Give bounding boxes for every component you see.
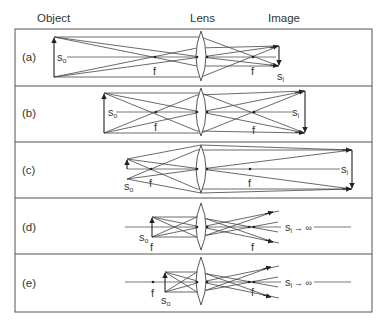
panel-label: (d) — [22, 221, 36, 233]
panel-label: (c) — [22, 164, 36, 176]
panel-b: (b) so f f si — [22, 88, 305, 136]
panel-c: (c) so f f si — [22, 145, 352, 193]
so-label: so — [161, 294, 171, 307]
f-label-right: f — [251, 286, 255, 298]
panel-label: (a) — [22, 51, 36, 63]
lens-point — [196, 56, 199, 59]
f-label-left: f — [154, 121, 158, 133]
f-label-left: f — [149, 177, 153, 189]
focal-point-right — [252, 56, 255, 59]
so-label: so — [57, 51, 67, 64]
ray — [127, 179, 352, 193]
so-label: so — [108, 106, 118, 119]
diagram-frame — [15, 29, 372, 312]
si-infinity-label: si→ ∞ — [285, 276, 312, 289]
f-label-right: f — [251, 241, 255, 253]
f-label-left: f — [153, 65, 157, 77]
si-label: si — [341, 163, 349, 176]
panel-e: (e) f so f si→ ∞ — [22, 257, 351, 307]
so-label: so — [139, 231, 149, 244]
lens-diagram: (a) so f f si (b) — [0, 0, 385, 323]
focal-point-left — [154, 56, 157, 59]
focal-point-right — [248, 226, 251, 229]
focal-point-right — [248, 281, 251, 284]
f-label-right: f — [251, 65, 255, 77]
f-label-left: f — [150, 241, 154, 253]
si-label: si — [292, 106, 300, 119]
panel-label: (e) — [22, 277, 36, 289]
ray — [127, 150, 352, 179]
lens-point — [196, 168, 199, 171]
focal-point-left — [155, 111, 158, 114]
lens-point — [206, 226, 209, 229]
focal-point-right — [249, 168, 252, 171]
ray — [54, 46, 279, 77]
focal-point-right — [253, 281, 256, 284]
f-label-right: f — [248, 177, 252, 189]
panel-label: (b) — [22, 107, 36, 119]
lens-point — [196, 226, 199, 229]
lens-point — [206, 111, 209, 114]
focal-point-right — [253, 226, 256, 229]
lens-point — [206, 281, 209, 284]
f-label-right: f — [252, 124, 256, 136]
panel-a: (a) so f f si — [22, 31, 285, 83]
ray — [152, 211, 279, 237]
panel-d: (d) so f f si→ ∞ — [22, 203, 351, 253]
lens-point — [196, 281, 199, 284]
ray — [127, 159, 352, 189]
lens-point — [206, 56, 209, 59]
ray — [165, 266, 279, 292]
si-infinity-label: si→ ∞ — [285, 221, 312, 234]
focal-point-left — [152, 281, 155, 284]
ray — [127, 145, 352, 159]
lens-point — [196, 111, 199, 114]
si-label: si — [277, 70, 285, 83]
lens-point — [206, 168, 209, 171]
ray — [152, 217, 279, 243]
ray — [165, 272, 279, 298]
so-label: so — [124, 180, 134, 193]
focal-point-right — [253, 111, 256, 114]
focal-point-left — [150, 168, 153, 171]
f-label-left: f — [151, 287, 155, 299]
